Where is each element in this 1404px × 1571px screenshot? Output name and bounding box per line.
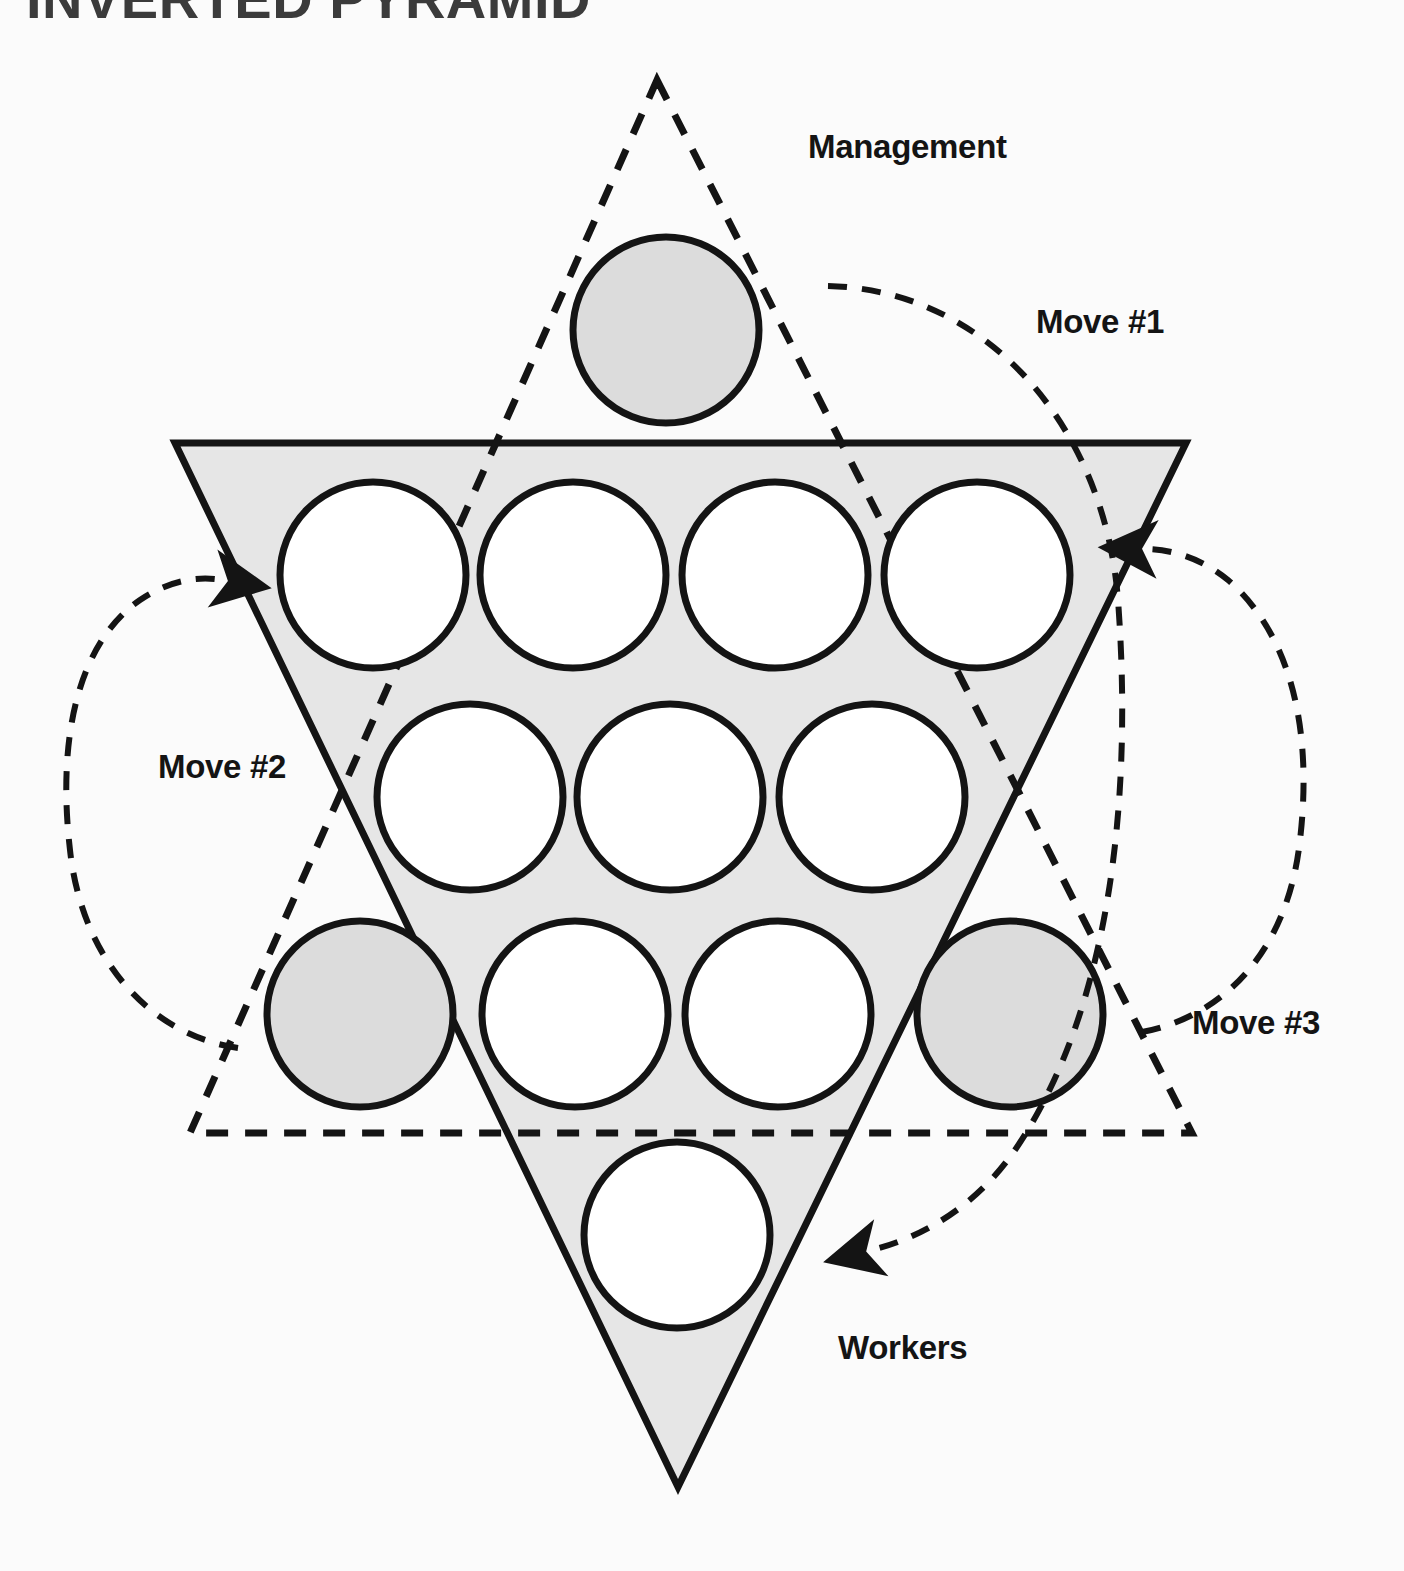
diagram-canvas: INVERTED PYRAMID: [0, 0, 1404, 1571]
pin-circle-5[interactable]: [884, 482, 1070, 668]
label-management: Management: [808, 128, 1007, 166]
pin-circle-11[interactable]: [685, 921, 871, 1107]
move-2-arrow[interactable]: [66, 579, 238, 1048]
pin-circle-7[interactable]: [577, 704, 763, 890]
pin-circle-2[interactable]: [280, 482, 466, 668]
pin-circle-8[interactable]: [779, 704, 965, 890]
label-workers: Workers: [838, 1329, 967, 1367]
pin-circle-3[interactable]: [480, 482, 666, 668]
label-move-2: Move #2: [158, 748, 286, 786]
pin-circle-1[interactable]: [573, 237, 759, 423]
move-3-arrow[interactable]: [1142, 549, 1304, 1032]
pin-circle-6[interactable]: [377, 704, 563, 890]
label-move-1: Move #1: [1036, 303, 1164, 341]
pin-circle-4[interactable]: [682, 482, 868, 668]
pin-circle-9[interactable]: [267, 921, 453, 1107]
pin-circle-13[interactable]: [584, 1142, 770, 1328]
label-move-3: Move #3: [1192, 1004, 1320, 1042]
pin-circle-12[interactable]: [917, 921, 1103, 1107]
pin-circle-10[interactable]: [482, 921, 668, 1107]
